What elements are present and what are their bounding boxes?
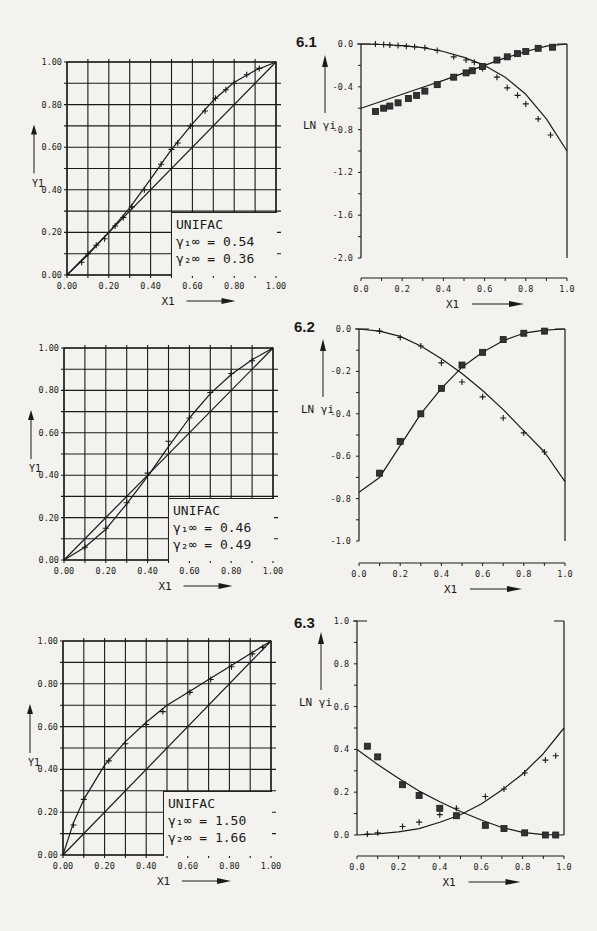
x-tick-label: 1.00 [266, 281, 286, 291]
x-tick-label: 0.20 [96, 566, 116, 576]
star-marker [437, 805, 443, 811]
gamma2-label: γ₂∞ = [173, 537, 212, 552]
star-marker [522, 830, 528, 836]
y-tick-label: 0.00 [42, 270, 62, 280]
series-line [359, 329, 565, 482]
plus-marker [412, 44, 418, 50]
y-tick-label: 0.80 [39, 385, 59, 395]
x-tick-label: 0.40 [136, 861, 156, 871]
star-marker [463, 70, 469, 76]
star-marker [422, 88, 428, 94]
gamma1-value: 1.50 [215, 813, 246, 828]
plus-marker [381, 42, 387, 48]
y-tick-label: 0.40 [38, 764, 58, 774]
star-marker [405, 96, 411, 102]
star-marker [553, 832, 559, 838]
x-tick-label: 0.60 [179, 566, 199, 576]
y-tick-label: 0.0 [338, 39, 353, 49]
x-tick-label: 0.4 [434, 569, 449, 579]
figure-label-6-3: 6.3 [294, 614, 315, 631]
unifac-title: UNIFAC [168, 795, 272, 812]
x-axis-label: X1 [157, 875, 170, 888]
y-tick-label: 0.60 [39, 428, 59, 438]
gamma2-inf: γ₂∞ = 0.49 [173, 536, 274, 553]
x-tick-label: 0.60 [182, 281, 202, 291]
x-tick-label: 0.6 [474, 862, 489, 872]
x-tick-label: 1.00 [263, 566, 283, 576]
unifac-title: UNIFAC [176, 216, 277, 233]
plus-marker [548, 132, 554, 138]
x-tick-label: 0.80 [221, 566, 241, 576]
x-axis-label: X1 [162, 295, 175, 308]
star-marker [500, 337, 506, 343]
y-axis-label: Y1 [29, 463, 41, 474]
plus-marker [553, 753, 559, 759]
y-tick-label: 0.0 [334, 830, 349, 840]
y-tick-label: -0.2 [331, 366, 351, 376]
y-axis-label: Y1 [28, 757, 40, 768]
star-marker [504, 54, 510, 60]
star-marker [523, 48, 529, 54]
x-tick-label: 0.0 [353, 284, 368, 294]
figure-label-6-2: 6.2 [294, 318, 315, 335]
plus-marker [422, 45, 428, 51]
plus-marker [418, 343, 424, 349]
gamma1-label: γ₁∞ = [176, 234, 215, 249]
y-tick-label: 0.80 [42, 100, 62, 110]
star-marker [521, 330, 527, 336]
plus-marker [70, 822, 76, 828]
series-line [357, 728, 564, 835]
plus-marker [372, 41, 378, 47]
y-tick-label: -2.0 [333, 253, 353, 263]
plus-marker [523, 101, 529, 107]
y-tick-label: 0.40 [39, 470, 59, 480]
y-tick-label: 1.00 [42, 57, 62, 67]
x-tick-label: 0.8 [516, 569, 531, 579]
y-tick-label: 0.60 [42, 142, 62, 152]
gamma2-inf: γ₂∞ = 0.36 [176, 250, 277, 267]
plus-marker [403, 43, 409, 49]
x-tick-label: 0.8 [518, 284, 533, 294]
y-tick-label: 1.0 [334, 616, 349, 626]
plus-marker [160, 709, 166, 715]
plus-marker [79, 259, 85, 265]
x-tick-label: 0.00 [53, 861, 73, 871]
x-tick-label: 0.40 [137, 566, 157, 576]
unifac-legend-6-1: UNIFAC γ₁∞ = 0.54 γ₂∞ = 0.36 [171, 212, 277, 276]
x-tick-label: 0.0 [351, 569, 366, 579]
star-marker [494, 57, 500, 63]
plus-marker [515, 92, 521, 98]
star-marker [535, 45, 541, 51]
gamma1-label: γ₁∞ = [173, 520, 212, 535]
x-tick-label: 0.80 [224, 281, 244, 291]
plus-marker [542, 757, 548, 763]
star-marker [372, 108, 378, 114]
y-axis-label: Y1 [32, 178, 44, 189]
unifac-legend-6-2: UNIFAC γ₁∞ = 0.46 γ₂∞ = 0.49 [168, 498, 274, 561]
star-marker [364, 743, 370, 749]
star-marker [381, 105, 387, 111]
y-tick-label: 0.20 [38, 807, 58, 817]
x-tick-label: 0.20 [99, 281, 119, 291]
plus-marker [504, 85, 510, 91]
plus-marker [459, 379, 465, 385]
y-tick-label: 0.40 [42, 185, 62, 195]
star-marker [418, 411, 424, 417]
gamma1-value: 0.46 [220, 520, 251, 535]
y-tick-label: 0.8 [334, 659, 349, 669]
star-marker [416, 792, 422, 798]
star-marker [414, 92, 420, 98]
y-tick-label: 0.20 [42, 227, 62, 237]
x-tick-label: 1.0 [559, 284, 574, 294]
x-axis-label: X1 [446, 298, 459, 311]
star-marker [459, 362, 465, 368]
figure-label-6-1: 6.1 [296, 33, 317, 50]
x-tick-label: 0.80 [219, 861, 239, 871]
plus-marker [437, 812, 443, 818]
star-marker [375, 754, 381, 760]
series-line [359, 329, 565, 492]
gamma1-inf: γ₁∞ = 1.50 [168, 812, 272, 829]
star-marker [542, 832, 548, 838]
plus-marker [482, 793, 488, 799]
plus-marker [102, 236, 108, 242]
